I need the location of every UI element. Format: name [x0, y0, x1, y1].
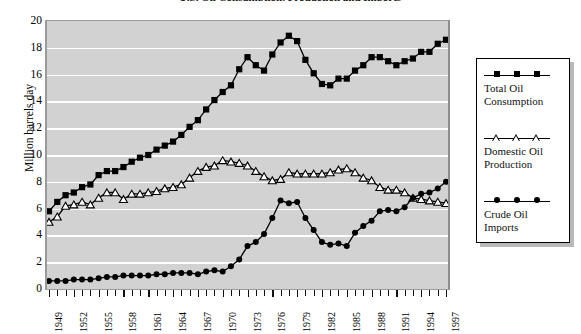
- data-point: [244, 162, 252, 169]
- legend-label: Domestic Oil Production: [484, 145, 568, 170]
- x-tick-label: 1973: [252, 312, 263, 332]
- data-point: [369, 218, 375, 224]
- y-tick-label: 16: [18, 69, 42, 79]
- data-point: [286, 200, 292, 206]
- data-point: [344, 243, 350, 249]
- data-point: [54, 199, 60, 205]
- x-tick-label: 1967: [202, 312, 213, 332]
- y-tick-label: 14: [18, 95, 42, 105]
- data-point: [377, 54, 383, 60]
- data-point: [120, 273, 126, 279]
- data-point: [269, 51, 275, 57]
- data-point: [203, 269, 209, 275]
- data-point: [426, 190, 432, 196]
- data-point: [96, 172, 102, 178]
- plot-area: [45, 20, 450, 290]
- data-point: [294, 38, 300, 44]
- x-axis-tick-labels: 1949195219551958196119641967197019731976…: [45, 296, 450, 334]
- chart-figure: U.S. Oil Consumption, Production and Imp…: [0, 0, 581, 334]
- data-point: [211, 97, 217, 103]
- data-point: [335, 76, 341, 82]
- data-point: [211, 267, 217, 273]
- data-point: [178, 270, 184, 276]
- legend-label: Total Oil Consumption: [484, 82, 568, 107]
- data-point: [426, 49, 432, 55]
- legend-swatch-filled-square-icon: [484, 69, 550, 81]
- chart-legend: Total Oil Consumption Domestic Oil Produ…: [476, 58, 570, 243]
- data-point: [302, 57, 308, 63]
- y-tick-label: 6: [18, 203, 42, 213]
- legend-entry-total-oil-consumption[interactable]: Total Oil Consumption: [484, 69, 568, 107]
- data-point: [153, 147, 159, 153]
- data-point: [311, 70, 317, 76]
- x-tick-label: 1997: [450, 312, 461, 332]
- data-point: [236, 66, 242, 72]
- legend-entry-crude-oil-imports[interactable]: Crude Oil Imports: [484, 195, 568, 233]
- data-point: [410, 195, 416, 201]
- x-tick-label: 1958: [127, 312, 138, 332]
- data-point: [278, 198, 284, 204]
- y-tick-label: 18: [18, 42, 42, 52]
- series-domestic-oil-production: [47, 157, 448, 226]
- data-point: [418, 191, 424, 197]
- x-tick-label: 1952: [78, 312, 89, 332]
- data-point: [62, 192, 68, 198]
- data-point: [360, 62, 366, 68]
- data-point: [54, 278, 60, 284]
- x-tick-label: 1979: [301, 312, 312, 332]
- data-point: [195, 271, 201, 277]
- data-point: [53, 213, 61, 220]
- data-point: [71, 189, 77, 195]
- data-point: [402, 58, 408, 64]
- data-point: [401, 189, 409, 196]
- y-tick-label: 0: [18, 283, 42, 293]
- data-point: [368, 54, 374, 60]
- data-point: [360, 223, 366, 229]
- data-point: [385, 58, 391, 64]
- legend-label: Crude Oil Imports: [484, 208, 568, 233]
- data-point: [245, 243, 251, 249]
- data-point: [435, 41, 441, 47]
- data-point: [269, 215, 275, 221]
- data-series-layer: [47, 21, 448, 289]
- data-point: [162, 271, 168, 277]
- x-tick-label: 1955: [103, 312, 114, 332]
- x-tick-label: 1949: [53, 312, 64, 332]
- data-point: [129, 273, 135, 279]
- data-point: [63, 278, 69, 284]
- data-point: [368, 177, 376, 184]
- data-point: [418, 49, 424, 55]
- legend-swatch-filled-circle-icon: [484, 195, 550, 207]
- data-point: [195, 117, 201, 123]
- legend-entry-domestic-oil-production[interactable]: Domestic Oil Production: [484, 132, 568, 170]
- data-point: [47, 278, 52, 284]
- data-point: [96, 275, 102, 281]
- data-point: [170, 139, 176, 145]
- data-point: [104, 274, 110, 280]
- data-point: [203, 106, 209, 112]
- data-point: [228, 263, 234, 269]
- data-point: [261, 231, 267, 237]
- y-tick-label: 8: [18, 176, 42, 186]
- data-point: [253, 62, 259, 68]
- x-tick-label: 1961: [152, 312, 163, 332]
- data-point: [286, 33, 292, 39]
- data-point: [162, 143, 168, 149]
- data-point: [194, 167, 202, 174]
- data-point: [104, 168, 110, 174]
- data-point: [319, 81, 325, 87]
- data-point: [47, 208, 52, 214]
- data-point: [319, 239, 325, 245]
- x-tick-label: 1970: [227, 312, 238, 332]
- y-tick-label: 2: [18, 256, 42, 266]
- data-point: [435, 186, 441, 192]
- data-point: [79, 277, 85, 283]
- data-point: [302, 215, 308, 221]
- y-tick-label: 12: [18, 122, 42, 132]
- data-point: [178, 132, 184, 138]
- data-point: [261, 67, 267, 73]
- data-point: [79, 184, 85, 190]
- data-point: [253, 239, 259, 245]
- data-point: [393, 208, 399, 214]
- data-point: [137, 155, 143, 161]
